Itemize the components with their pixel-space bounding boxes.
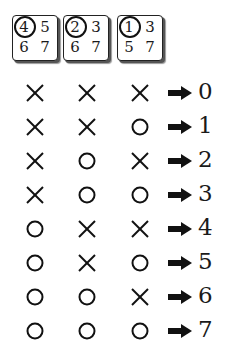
right-arrow-icon	[168, 86, 192, 100]
cross-icon	[23, 183, 47, 207]
card-cell-circled: 2	[64, 16, 86, 38]
circle-icon	[23, 217, 47, 241]
result-number: 6	[198, 280, 213, 310]
right-arrow-icon	[168, 290, 192, 304]
table-row: 0	[0, 81, 228, 111]
right-arrow-icon	[168, 256, 192, 270]
result-number: 7	[198, 314, 213, 344]
cross-icon	[75, 251, 99, 275]
card-cell-circled: 1	[118, 16, 140, 38]
table-row: 4	[0, 217, 228, 247]
cross-icon	[75, 115, 99, 139]
card-cell: 7	[34, 36, 56, 58]
cross-icon	[128, 285, 152, 309]
cross-icon	[128, 149, 152, 173]
result-number: 1	[198, 110, 213, 140]
right-arrow-icon	[168, 120, 192, 134]
cross-icon	[128, 217, 152, 241]
right-arrow-icon	[168, 222, 192, 236]
table-row: 1	[0, 115, 228, 145]
result-number: 0	[198, 76, 213, 106]
circle-icon	[23, 251, 47, 275]
table-row: 3	[0, 183, 228, 213]
card-cell: 7	[139, 36, 161, 58]
table-row: 6	[0, 285, 228, 315]
result-number: 4	[198, 212, 213, 242]
card-cell: 5	[34, 16, 56, 38]
card-cell-circled: 4	[13, 16, 35, 38]
cross-icon	[23, 115, 47, 139]
result-number: 2	[198, 144, 213, 174]
result-number: 5	[198, 246, 213, 276]
card-cell: 7	[85, 36, 107, 58]
circle-icon	[75, 319, 99, 343]
card-1357: 1 3 5 7	[117, 15, 163, 61]
card-cell: 6	[13, 36, 35, 58]
circle-icon	[23, 285, 47, 309]
card-cell: 3	[85, 16, 107, 38]
right-arrow-icon	[168, 154, 192, 168]
circle-icon	[128, 183, 152, 207]
card-cell: 5	[118, 36, 140, 58]
right-arrow-icon	[168, 188, 192, 202]
cross-icon	[75, 81, 99, 105]
circle-icon	[75, 183, 99, 207]
circle-icon	[75, 149, 99, 173]
right-arrow-icon	[168, 324, 192, 338]
cross-icon	[23, 81, 47, 105]
circle-icon	[128, 319, 152, 343]
cross-icon	[128, 81, 152, 105]
table-row: 5	[0, 251, 228, 281]
table-row: 7	[0, 319, 228, 349]
circle-icon	[75, 285, 99, 309]
cross-icon	[23, 149, 47, 173]
card-cell: 3	[139, 16, 161, 38]
circle-icon	[128, 115, 152, 139]
card-cell: 6	[64, 36, 86, 58]
card-4567: 4 5 6 7	[12, 15, 58, 61]
result-number: 3	[198, 178, 213, 208]
circle-icon	[128, 251, 152, 275]
table-row: 2	[0, 149, 228, 179]
circle-icon	[23, 319, 47, 343]
card-2367: 2 3 6 7	[63, 15, 109, 61]
cross-icon	[75, 217, 99, 241]
